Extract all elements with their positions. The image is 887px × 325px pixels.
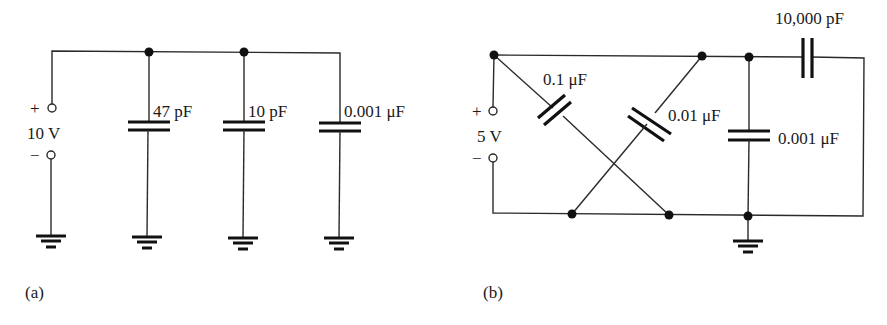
capacitor-label: 0.1 μF xyxy=(543,70,587,89)
source-voltage-a: 10 V xyxy=(27,124,61,143)
capacitor-label: 47 pF xyxy=(153,102,192,121)
plus-sign-b: + xyxy=(472,102,482,121)
plus-sign-a: + xyxy=(30,99,40,118)
minus-terminal-a xyxy=(47,151,55,159)
top-bus-a xyxy=(52,51,340,122)
capacitor-0.01uf: 0.01 μF xyxy=(572,56,721,214)
capacitor-label: 0.001 μF xyxy=(778,129,839,148)
minus-sign-a: − xyxy=(30,146,40,165)
source-voltage-b: 5 V xyxy=(477,127,502,146)
ground-icon xyxy=(733,241,763,252)
capacitor-label: 0.001 μF xyxy=(344,102,405,121)
ground-icon xyxy=(132,237,162,248)
circuit-a: + − 10 V 47 pF 10 pF 0.001 μF xyxy=(25,48,405,303)
capacitor-47pf: 47 pF xyxy=(128,52,192,236)
junction-node xyxy=(698,52,707,61)
capacitor-label: 0.01 μF xyxy=(668,106,721,125)
capacitor-0.001uf-b: 0.001 μF xyxy=(728,57,839,216)
panel-caption-a: (a) xyxy=(25,283,44,302)
capacitor-10000pf: 10,000 pF xyxy=(775,9,844,78)
junction-node xyxy=(490,51,499,60)
minus-sign-b: − xyxy=(472,149,482,168)
junction-node xyxy=(145,48,154,57)
junction-node xyxy=(744,212,753,221)
ground-icon xyxy=(36,236,66,247)
junction-node xyxy=(665,211,674,220)
capacitor-label: 10,000 pF xyxy=(775,9,844,28)
minus-terminal-b xyxy=(489,154,497,162)
source-plus-lead-b xyxy=(493,55,494,107)
capacitor-0.1uf: 0.1 μF xyxy=(494,55,669,215)
junction-node xyxy=(568,210,577,219)
ground-icon xyxy=(324,238,354,249)
top-wire-b xyxy=(494,55,802,57)
circuit-figure: + − 10 V 47 pF 10 pF 0.001 μF xyxy=(0,0,887,325)
ground-icon xyxy=(228,238,258,249)
capacitor-10pf: 10 pF xyxy=(223,52,287,237)
plus-terminal-b xyxy=(489,107,497,115)
plus-terminal-a xyxy=(48,104,56,112)
panel-caption-b: (b) xyxy=(483,283,503,302)
circuit-b: + − 5 V 0.1 μF 0.01 μF 0.001 μF xyxy=(472,9,864,302)
capacitor-0.001uf-a: 0.001 μF xyxy=(319,102,405,238)
capacitor-label: 10 pF xyxy=(248,102,287,121)
junction-node xyxy=(240,48,249,57)
junction-node xyxy=(745,53,754,62)
